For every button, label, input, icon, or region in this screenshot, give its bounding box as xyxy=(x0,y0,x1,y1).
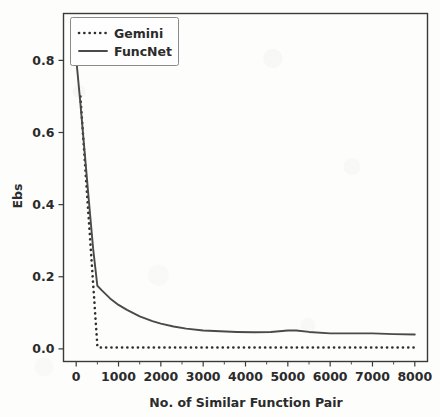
y-tick-label: 0.6 xyxy=(32,125,54,140)
series-line-gemini xyxy=(80,96,414,347)
y-tick-label: 0.2 xyxy=(32,269,54,284)
legend-label-funcnet: FuncNet xyxy=(114,44,172,59)
legend-label-gemini: Gemini xyxy=(114,26,163,41)
y-tick-label: 0.8 xyxy=(32,53,54,68)
x-tick-label: 7000 xyxy=(355,369,390,384)
x-tick-label: 5000 xyxy=(270,369,305,384)
y-tick-label: 0.4 xyxy=(32,197,54,212)
series-layer xyxy=(76,59,415,348)
chart-legend[interactable]: Gemini FuncNet xyxy=(71,18,179,66)
x-tick-label: 8000 xyxy=(397,369,432,384)
x-tick-label: 1000 xyxy=(101,369,136,384)
x-tick-label: 0 xyxy=(72,369,81,384)
series-line-funcnet xyxy=(76,59,415,335)
y-axis-ticks: 0.00.20.40.60.8 xyxy=(32,53,63,356)
y-axis-title: Ebs xyxy=(10,184,25,209)
x-axis-title: No. of Similar Function Pair xyxy=(149,395,343,410)
x-tick-label: 3000 xyxy=(186,369,221,384)
x-tick-label: 2000 xyxy=(143,369,178,384)
x-tick-label: 6000 xyxy=(313,369,348,384)
x-tick-label: 4000 xyxy=(228,369,263,384)
x-axis-ticks: 010002000300040005000600070008000 xyxy=(72,362,433,384)
plot-canvas: 0.00.20.40.60.8 010002000300040005000600… xyxy=(0,0,440,417)
chart-figure: 0.00.20.40.60.8 010002000300040005000600… xyxy=(0,0,440,417)
y-tick-label: 0.0 xyxy=(32,341,54,356)
